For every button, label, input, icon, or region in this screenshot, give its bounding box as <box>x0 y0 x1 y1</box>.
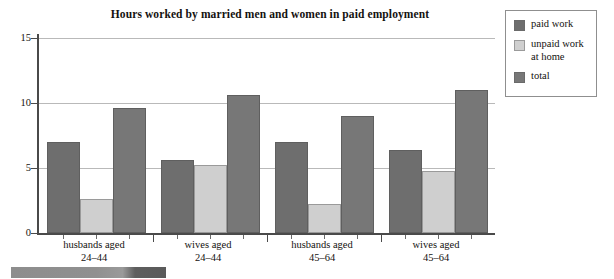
x-group-label-line2: 45–64 <box>381 251 491 264</box>
legend-swatch-icon-total <box>514 72 525 83</box>
legend-swatch-icon-unpaid-work <box>514 40 525 51</box>
bar-total-husbands-45-64 <box>341 116 374 233</box>
bar-paid-work-wives-24-44 <box>161 160 194 233</box>
bars-layer <box>39 38 495 233</box>
x-group-label-line1: wives aged <box>185 239 232 250</box>
bar-paid-work-husbands-45-64 <box>275 142 308 233</box>
legend-swatch-icon-paid-work <box>514 20 525 31</box>
legend-item-paid-work: paid work <box>514 18 596 31</box>
bar-total-wives-24-44 <box>227 95 260 233</box>
x-group-label-husbands-45-64: husbands aged 45–64 <box>267 238 377 264</box>
y-tick-label-0: 0 <box>9 228 31 239</box>
y-tick-label-10: 10 <box>9 98 31 109</box>
legend-label-unpaid-work-at-home: unpaid work at home <box>531 38 584 63</box>
bar-unpaid-work-wives-45-64 <box>422 171 455 233</box>
chart-legend: paid work unpaid work at home total <box>505 10 597 97</box>
bar-paid-work-wives-45-64 <box>389 150 422 233</box>
legend-label-paid-work: paid work <box>531 18 573 31</box>
x-group-label-line2: 24–44 <box>153 251 263 264</box>
x-group-label-husbands-24-44: husbands aged 24–44 <box>39 238 149 264</box>
bar-unpaid-work-husbands-45-64 <box>308 204 341 233</box>
x-group-label-line2: 45–64 <box>267 251 377 264</box>
legend-item-total: total <box>514 70 596 83</box>
chart-title: Hours worked by married men and women in… <box>60 8 480 20</box>
legend-label-line2: at home <box>531 51 565 62</box>
bar-chart-figure: Hours worked by married men and women in… <box>0 0 614 279</box>
x-axis-line <box>37 233 495 235</box>
legend-item-unpaid-work-at-home: unpaid work at home <box>514 38 596 63</box>
bar-unpaid-work-husbands-24-44 <box>80 199 113 233</box>
x-group-label-line1: wives aged <box>413 239 460 250</box>
x-group-label-line1: husbands aged <box>291 239 353 250</box>
x-group-label-line2: 24–44 <box>39 251 149 264</box>
bar-unpaid-work-wives-24-44 <box>194 165 227 233</box>
legend-label-total: total <box>531 70 550 83</box>
x-group-label-line1: husbands aged <box>63 239 125 250</box>
y-tick-label-15: 15 <box>9 33 31 44</box>
x-group-label-wives-24-44: wives aged 24–44 <box>153 238 263 264</box>
x-group-label-wives-45-64: wives aged 45–64 <box>381 238 491 264</box>
y-axis-labels: 15 10 5 0 <box>5 38 31 238</box>
bar-total-husbands-24-44 <box>113 108 146 233</box>
plot-area <box>37 38 495 233</box>
bar-paid-work-husbands-24-44 <box>47 142 80 233</box>
legend-label-line1: unpaid work <box>531 38 584 49</box>
scan-artifact-strip <box>11 267 166 278</box>
y-tick-label-5: 5 <box>9 163 31 174</box>
bar-total-wives-45-64 <box>455 90 488 233</box>
